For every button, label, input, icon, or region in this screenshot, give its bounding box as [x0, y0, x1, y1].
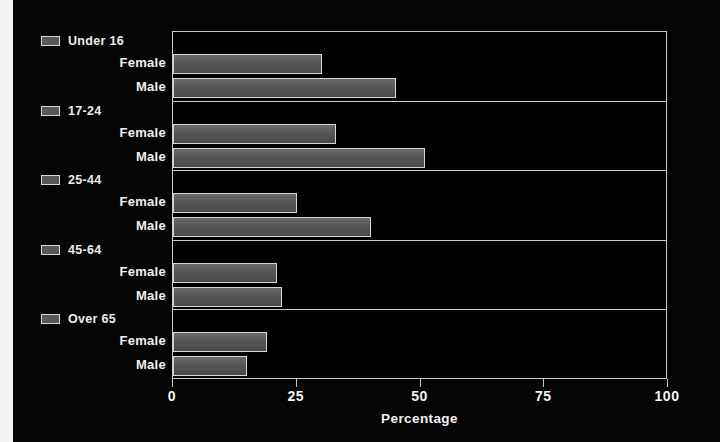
bar-label-female: Female [6, 194, 166, 209]
bar-over-65-female [173, 332, 267, 352]
bar-label-female: Female [6, 264, 166, 279]
chart-screenshot: Under 16FemaleMale17-24FemaleMale25-44Fe… [0, 0, 720, 442]
group-label: 45-64 [68, 243, 101, 257]
group-separator-line [173, 240, 666, 241]
legend-swatch-icon [41, 106, 60, 116]
bar-label-female: Female [6, 125, 166, 140]
x-tick-label: 50 [390, 388, 450, 404]
bar-label-male: Male [6, 357, 166, 372]
legend-swatch-icon [41, 36, 60, 46]
x-tick-mark [667, 379, 668, 387]
group-legend-over-65: Over 65 [41, 312, 116, 326]
bar-label-male: Male [6, 149, 166, 164]
x-tick-label: 25 [266, 388, 326, 404]
x-tick-mark [543, 379, 544, 387]
group-separator-line [173, 101, 666, 102]
group-label: 17-24 [68, 104, 101, 118]
bar-label-male: Male [6, 288, 166, 303]
bar-over-65-male [173, 356, 247, 376]
x-axis-title: Percentage [172, 411, 667, 426]
group-label: Under 16 [68, 34, 124, 48]
bar-25-44-male [173, 217, 371, 237]
x-tick-label: 0 [142, 388, 202, 404]
bar-45-64-female [173, 263, 277, 283]
group-separator-line [173, 309, 666, 310]
group-label: Over 65 [68, 312, 116, 326]
x-tick-mark [172, 379, 173, 387]
x-tick-mark [420, 379, 421, 387]
bar-under-16-male [173, 78, 396, 98]
x-tick-mark [296, 379, 297, 387]
bar-label-male: Male [6, 79, 166, 94]
bar-label-female: Female [6, 55, 166, 70]
legend-swatch-icon [41, 245, 60, 255]
bar-under-16-female [173, 54, 322, 74]
group-legend-17-24: 17-24 [41, 104, 101, 118]
group-label: 25-44 [68, 173, 101, 187]
legend-swatch-icon [41, 175, 60, 185]
bar-45-64-male [173, 287, 282, 307]
bar-17-24-male [173, 148, 425, 168]
x-tick-label: 100 [637, 388, 697, 404]
x-tick-label: 75 [513, 388, 573, 404]
bar-17-24-female [173, 124, 336, 144]
category-label-column: Under 16FemaleMale17-24FemaleMale25-44Fe… [0, 0, 166, 442]
group-legend-25-44: 25-44 [41, 173, 101, 187]
legend-swatch-icon [41, 314, 60, 324]
bar-label-female: Female [6, 333, 166, 348]
bar-25-44-female [173, 193, 297, 213]
group-separator-line [173, 170, 666, 171]
group-legend-under-16: Under 16 [41, 34, 124, 48]
bar-label-male: Male [6, 218, 166, 233]
group-legend-45-64: 45-64 [41, 243, 101, 257]
plot-area [172, 31, 667, 379]
